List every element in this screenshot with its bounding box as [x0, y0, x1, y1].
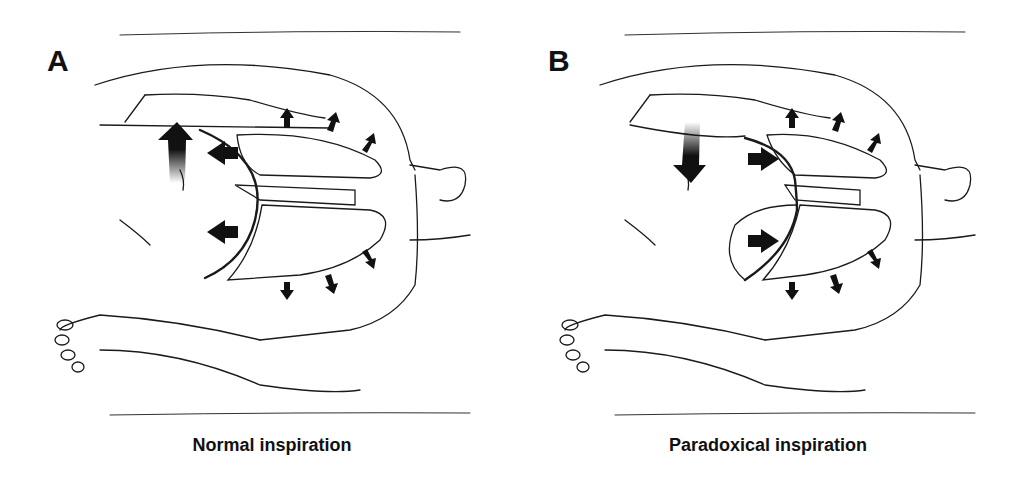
panel-letter: A — [47, 44, 69, 78]
abdomen-arrow-down — [673, 122, 706, 183]
body-illustration-a — [0, 0, 500, 482]
body-illustration-b — [505, 0, 1011, 482]
panel-b-paradoxical-inspiration: B Paradoxical inspiration — [505, 0, 1011, 482]
diaphragm-arrows-left — [207, 141, 238, 244]
panel-caption: Paradoxical inspiration — [515, 435, 1011, 456]
chest-wall-arrows-b — [785, 108, 881, 300]
diaphragm-arrows-right — [748, 147, 779, 253]
abdomen-arrow-up — [158, 122, 193, 183]
panel-letter: B — [548, 44, 570, 78]
panel-caption: Normal inspiration — [22, 435, 522, 456]
panel-a-normal-inspiration: A Normal inspiration — [0, 0, 500, 482]
